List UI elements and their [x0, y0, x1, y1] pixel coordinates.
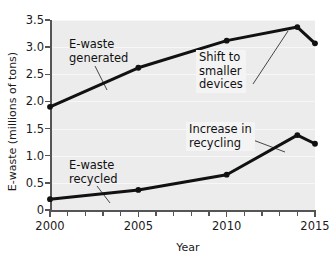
y-tick-mark — [45, 19, 50, 20]
x-tick-mark — [208, 211, 209, 216]
y-tick-mark — [45, 74, 50, 75]
y-tick-mark — [45, 46, 50, 47]
x-tick-mark — [138, 211, 139, 217]
x-tick-mark — [226, 211, 227, 217]
x-tick-mark — [49, 211, 50, 217]
e-waste-line-chart: 00.51.01.52.02.53.03.5 2000200520102015 … — [0, 0, 332, 264]
x-tick-label: 2010 — [212, 219, 241, 233]
y-axis-line — [50, 20, 52, 211]
x-tick-mark — [85, 211, 86, 216]
x-tick-label: 2005 — [124, 219, 153, 233]
x-axis-line — [50, 210, 316, 212]
y-axis-title: E-waste (millions of tons) — [6, 27, 19, 217]
x-tick-mark — [102, 211, 103, 216]
annotation-increase-in-recycling: Increase in recycling — [186, 122, 255, 151]
gridline-1.0 — [50, 156, 315, 157]
x-tick-mark — [155, 211, 156, 216]
gridline-1.5 — [50, 129, 315, 130]
x-tick-label: 2000 — [35, 219, 64, 233]
annotation-shift-to-smaller-devices: Shift to smaller devices — [196, 50, 246, 93]
y-tick-label: 3.5 — [0, 13, 44, 27]
x-axis-title: Year — [0, 241, 332, 254]
x-tick-mark — [279, 211, 280, 216]
x-tick-mark — [173, 211, 174, 216]
gridline-3.5 — [50, 20, 315, 21]
x-tick-mark — [297, 211, 298, 216]
x-tick-mark — [67, 211, 68, 216]
y-tick-mark — [45, 155, 50, 156]
annotation-e-waste-generated: E-waste generated — [66, 37, 131, 66]
y-tick-mark — [45, 101, 50, 102]
annotation-e-waste-recycled: E-waste recycled — [66, 158, 121, 187]
x-tick-mark — [314, 211, 315, 217]
gridline-2.5 — [50, 74, 315, 75]
x-tick-mark — [191, 211, 192, 216]
x-tick-label: 2015 — [300, 219, 329, 233]
x-tick-mark — [261, 211, 262, 216]
x-tick-mark — [120, 211, 121, 216]
x-tick-mark — [244, 211, 245, 216]
y-tick-mark — [45, 128, 50, 129]
y-tick-mark — [45, 182, 50, 183]
gridline-2.0 — [50, 101, 315, 102]
